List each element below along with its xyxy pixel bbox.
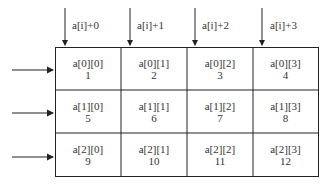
column-pointer-label-3: a[i]+3 (270, 19, 297, 31)
cell-name: a[1][0] (73, 100, 104, 112)
array-cell: a[2][2] 11 (187, 133, 253, 176)
cell-value: 5 (85, 112, 91, 124)
array-cell: a[0][3] 4 (253, 47, 318, 90)
array-cell: a[2][0] 9 (55, 133, 121, 176)
column-pointer-label-1: a[i]+1 (137, 19, 164, 31)
column-pointer-label-0: a[i]+0 (72, 19, 99, 31)
cell-value: 11 (215, 155, 226, 167)
cell-value: 3 (217, 69, 223, 81)
cell-value: 10 (149, 155, 160, 167)
cell-name: a[1][3] (270, 100, 301, 112)
array-cell: a[0][2] 3 (187, 47, 253, 90)
array-cell: a[1][3] 8 (253, 90, 318, 133)
cell-name: a[0][2] (205, 57, 236, 69)
array-cell: a[1][1] 6 (121, 90, 187, 133)
cell-name: a[2][3] (270, 143, 301, 155)
cell-value: 6 (151, 112, 157, 124)
array-cell: a[2][1] 10 (121, 133, 187, 176)
cell-name: a[1][2] (205, 100, 236, 112)
cell-value: 7 (217, 112, 223, 124)
cell-name: a[0][0] (73, 57, 104, 69)
column-pointer-label-2: a[i]+2 (202, 19, 229, 31)
cell-name: a[0][3] (270, 57, 301, 69)
array-cell: a[0][1] 2 (121, 47, 187, 90)
cell-value: 12 (280, 155, 291, 167)
cell-value: 8 (283, 112, 289, 124)
cell-name: a[0][1] (139, 57, 170, 69)
cell-name: a[2][2] (205, 143, 236, 155)
array-cell: a[1][2] 7 (187, 90, 253, 133)
cell-name: a[2][1] (139, 143, 170, 155)
array-cell: a[0][0] 1 (55, 47, 121, 90)
cell-value: 9 (85, 155, 91, 167)
cell-value: 4 (283, 69, 289, 81)
array-cell: a[2][3] 12 (253, 133, 318, 176)
cell-name: a[1][1] (139, 100, 170, 112)
array-cell: a[1][0] 5 (55, 90, 121, 133)
row-pointer-arrows (12, 70, 53, 157)
cell-value: 2 (151, 69, 157, 81)
cell-value: 1 (85, 69, 91, 81)
cell-name: a[2][0] (73, 143, 104, 155)
